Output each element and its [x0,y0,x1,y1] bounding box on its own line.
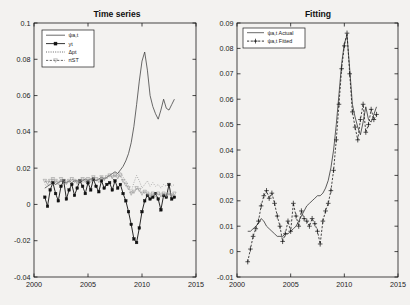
data-marker-square [168,183,171,186]
data-marker-square [100,180,103,183]
time-series-svg: Time series 0.10.080.060.040.020-0.02-0.… [0,0,205,305]
data-marker-plus [262,193,267,198]
data-marker-square [84,192,87,195]
data-marker-plus [372,117,377,122]
data-marker-plus [358,117,363,122]
data-marker-square [149,198,152,201]
y-tick-label: 0.06 [220,95,234,104]
fitting-axes: 0.090.080.070.060.050.040.030.020.010-0.… [217,19,406,289]
data-marker-plus [307,224,312,229]
x-tick-label: 2005 [80,280,96,289]
data-marker-plus [318,241,323,246]
legend-marker-square [54,42,57,45]
data-marker-plus [321,219,326,224]
x-tick-label: 2010 [134,280,150,289]
data-marker-plus [248,246,253,251]
data-marker-plus [313,221,318,226]
series-line-1 [45,179,175,243]
panel-fitting: Fitting 0.090.080.070.060.050.040.030.02… [205,0,410,305]
data-marker-square [170,198,173,201]
data-marker-plus [361,102,366,107]
data-marker-plus [302,216,307,221]
data-marker-plus [286,219,291,224]
y-tick-label: 0.02 [220,196,234,205]
panel-title-time-series: Time series [93,9,140,19]
data-marker-plus [256,219,261,224]
legend-label: ψa,t Actual [268,30,294,36]
legend-label: ψa,t [69,32,79,38]
data-marker-square [122,192,125,195]
x-tick-label: 2000 [26,280,42,289]
data-marker-square [81,185,84,188]
fitting-data [245,31,378,265]
legend-label: Δpt [69,49,78,55]
data-marker-plus [264,188,269,193]
data-marker-square [133,238,136,241]
time-series-legend[interactable]: ψa,tytΔptrtST [42,30,94,67]
y-tick-label: -0.02 [14,236,30,245]
series-line-1 [248,33,377,262]
data-marker-triangle [140,192,143,195]
data-marker-square [135,241,138,244]
data-marker-plus [369,107,374,112]
x-tick-label: 2015 [188,280,204,289]
data-marker-plus [323,208,328,213]
data-marker-plus [275,213,280,218]
x-tick-label: 2005 [283,280,299,289]
panel-title-fitting: Fitting [305,9,331,19]
fitting-svg: Fitting 0.090.080.070.060.050.040.030.02… [205,0,410,305]
fitting-legend[interactable]: ψa,t Actualψa,t Fitted [243,28,305,48]
x-tick-label: 2015 [390,280,406,289]
data-marker-square [141,210,144,213]
data-marker-square [98,190,101,193]
data-marker-triangle [46,181,49,184]
x-tick-label: 2010 [336,280,352,289]
data-marker-square [103,187,106,190]
data-marker-plus [253,226,258,231]
legend-label: ψa,t Fitted [268,38,293,44]
data-marker-square [54,192,57,195]
y-tick-label: 0.07 [220,69,234,78]
data-marker-square [44,196,47,199]
data-marker-square [76,187,79,190]
y-tick-label: 0 [230,247,234,256]
panel-time-series: Time series 0.10.080.060.040.020-0.02-0.… [0,0,205,305]
y-tick-label: 0.03 [220,171,234,180]
data-marker-square [119,183,122,186]
data-marker-plus [337,102,342,107]
data-marker-square [143,200,146,203]
y-tick-label: 0.08 [220,44,234,53]
y-tick-label: 0.04 [220,146,234,155]
data-marker-square [60,185,63,188]
data-marker-plus [339,66,344,71]
data-marker-plus [374,112,379,117]
data-marker-plus [280,239,285,244]
y-tick-label: 0.1 [21,19,31,28]
data-marker-square [68,189,71,192]
x-tick-label: 2000 [229,280,245,289]
data-marker-square [130,223,133,226]
data-marker-square [125,200,128,203]
data-marker-square [157,198,160,201]
y-tick-label: 0 [27,200,31,209]
data-marker-square [87,181,90,184]
data-marker-square [57,200,60,203]
y-tick-label: 0.08 [17,55,31,64]
data-marker-plus [278,224,283,229]
data-marker-triangle [127,187,130,190]
data-marker-plus [310,216,315,221]
data-marker-plus [364,130,369,135]
data-marker-plus [291,201,296,206]
data-marker-plus [355,137,360,142]
data-marker-square [71,183,74,186]
y-tick-label: 0.09 [220,19,234,28]
data-marker-plus [259,203,264,208]
data-marker-square [152,196,155,199]
data-marker-plus [270,191,275,196]
data-marker-square [114,180,117,183]
data-marker-plus [272,201,277,206]
data-marker-plus [347,71,352,76]
y-tick-label: 0.06 [17,91,31,100]
data-marker-square [173,196,176,199]
figure-container: Time series 0.10.080.060.040.020-0.02-0.… [0,0,410,305]
